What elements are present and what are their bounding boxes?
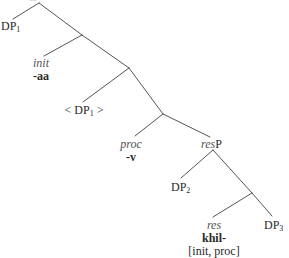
dp2-subscript: 2 [186,186,190,195]
dp1-subscript: 1 [16,25,20,34]
branch-n2-n3 [82,35,129,68]
node-dp1-trace: < DP1 > [65,104,104,116]
node-resP: resP [201,138,222,150]
init-category: init [33,57,49,69]
branch-n6-dp3 [252,193,272,216]
node-proc: proc -v [120,138,142,163]
dp2-label: DP [171,180,186,194]
node-dp2: DP2 [171,181,190,193]
branch-root-n2 [39,3,82,35]
resP-plain: P [215,137,222,151]
branch-n6-res [213,193,252,217]
node-res: res khil- [init, proc] [188,219,239,257]
branch-n3-dp1-trace [83,68,129,102]
res-category: res [188,219,239,231]
dp1-trace-close: > [94,103,104,117]
branch-n4-resP [163,114,210,137]
proc-category: proc [120,138,142,150]
dp1-label: DP [1,19,16,33]
branch-resP-n6 [213,150,252,193]
dp1-trace-open: < DP [65,103,90,117]
dp3-subscript: 3 [279,224,283,233]
branch-root-dp1 [13,3,39,19]
node-dp3: DP3 [264,219,283,231]
branch-n4-proc [135,114,163,136]
init-morpheme: -aa [33,70,49,82]
res-morpheme: khil- [188,232,239,244]
proc-morpheme: -v [120,151,142,163]
node-dp1: DP1 [1,20,20,32]
branch-n2-init [44,35,82,56]
branch-n3-n4 [129,68,163,114]
branch-resP-dp2 [181,150,213,178]
res-features: [init, proc] [188,245,239,257]
node-init: init -aa [33,57,49,82]
dp3-label: DP [264,218,279,232]
resP-italic: res [201,137,215,151]
